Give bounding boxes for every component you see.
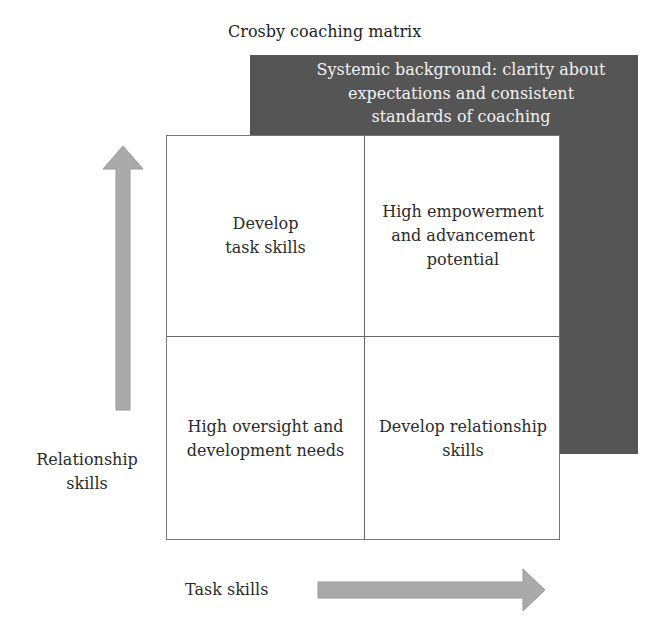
quadrant-top-right-label: High empowerment and advancement potenti… [382, 200, 543, 272]
systemic-background-text: Systemic background: clarity about expec… [296, 58, 626, 129]
y-axis-label: Relationship skills [28, 448, 146, 496]
arrow-up-icon [100, 142, 146, 414]
quadrant-top-left: Develop task skills [167, 136, 364, 336]
x-axis-label: Task skills [185, 578, 268, 602]
quadrant-bottom-left: High oversight and development needs [167, 337, 364, 540]
quadrant-bottom-right-label: Develop relationship skills [379, 415, 547, 463]
arrow-right-icon [314, 566, 550, 614]
diagram-title: Crosby coaching matrix [228, 22, 421, 41]
quadrant-top-right: High empowerment and advancement potenti… [365, 136, 561, 336]
quadrant-top-left-label: Develop task skills [225, 212, 305, 260]
quadrant-bottom-right: Develop relationship skills [365, 337, 561, 540]
quadrant-bottom-left-label: High oversight and development needs [187, 415, 344, 463]
coaching-matrix-grid: Develop task skills High empowerment and… [166, 135, 560, 540]
